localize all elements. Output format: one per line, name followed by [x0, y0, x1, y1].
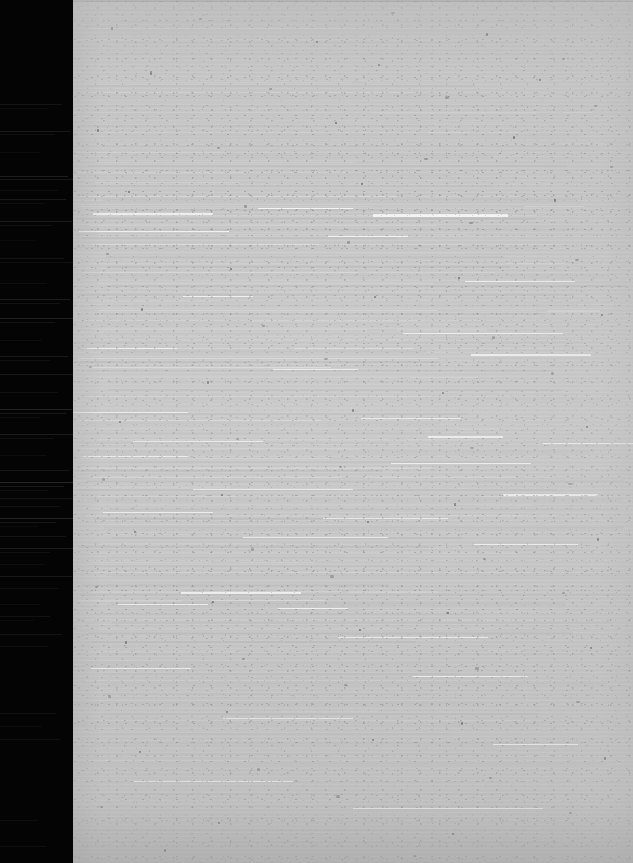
- ghost-text-line: [406, 439, 477, 440]
- ghost-line-shadow: [112, 622, 612, 624]
- ghost-text-line: [450, 17, 547, 18]
- ghost-text-line: [485, 553, 519, 554]
- ghost-text-line: [365, 477, 516, 478]
- ghost-text-band: [73, 196, 633, 406]
- ghost-line-shadow: [102, 693, 440, 695]
- margin-streak: [0, 262, 73, 263]
- document-page: [73, 0, 633, 863]
- paper-speck: [461, 722, 463, 725]
- highlight-streak: [328, 236, 408, 237]
- paper-speck: [106, 253, 109, 255]
- ghost-text-line: [212, 600, 325, 601]
- ghost-text-line: [99, 310, 437, 311]
- ghost-text-line: [380, 162, 453, 163]
- margin-streak: [0, 360, 50, 361]
- page-bottom-vignette: [73, 803, 633, 863]
- ghost-text-line: [88, 670, 307, 672]
- margin-streak: [0, 470, 70, 471]
- margin-streak: [0, 620, 34, 621]
- paper-speck: [316, 41, 318, 43]
- ghost-text-line: [534, 515, 558, 516]
- ghost-text-line: [98, 629, 397, 630]
- ghost-text-line: [432, 348, 564, 349]
- ghost-text-line: [450, 680, 550, 681]
- ghost-text-line: [488, 650, 523, 651]
- ghost-line-shadow: [103, 673, 458, 675]
- highlight-streak: [353, 808, 543, 809]
- highlight-streak: [87, 348, 177, 349]
- ghost-text-line: [85, 790, 280, 792]
- highlight-streak: [278, 608, 348, 609]
- paper-speck: [483, 558, 486, 560]
- ghost-line-shadow: [78, 753, 485, 755]
- paper-speck: [568, 483, 572, 485]
- ghost-line-shadow: [106, 556, 410, 558]
- paper-speck: [586, 426, 588, 428]
- ghost-text-line: [74, 253, 317, 254]
- margin-streak: [0, 646, 48, 647]
- paper-speck: [141, 308, 143, 311]
- paper-speck: [469, 222, 473, 224]
- ghost-text-line: [312, 263, 481, 264]
- ghost-text-line: [86, 750, 346, 751]
- ghost-text-line: [86, 291, 443, 292]
- ghost-text-line: [470, 814, 550, 815]
- ghost-line-shadow: [77, 442, 390, 444]
- paper-speck: [139, 751, 141, 753]
- ghost-text-line: [102, 339, 433, 340]
- ghost-line-shadow: [111, 575, 625, 577]
- ghost-text-line: [90, 562, 211, 563]
- highlight-streak: [323, 518, 448, 519]
- ghost-text-line: [410, 377, 478, 378]
- paper-speck: [513, 136, 515, 139]
- ghost-text-line: [81, 458, 330, 459]
- ghost-line-shadow: [108, 380, 518, 382]
- ghost-text-line: [451, 467, 558, 468]
- ghost-text-line: [77, 486, 231, 488]
- ghost-text-line: [353, 458, 541, 459]
- ghost-line-shadow: [106, 135, 579, 137]
- ghost-text-line: [79, 448, 359, 450]
- paper-speck: [492, 336, 495, 339]
- paper-speck: [359, 629, 361, 631]
- ghost-text-line: [281, 710, 378, 712]
- ghost-text-line: [93, 329, 367, 330]
- ghost-text-line: [421, 553, 478, 554]
- ghost-text-line: [391, 515, 528, 516]
- ghost-line-shadow: [112, 155, 494, 157]
- paper-speck: [324, 358, 328, 360]
- ghost-line-shadow: [82, 829, 529, 831]
- margin-streak: [0, 498, 73, 499]
- ghost-text-line: [90, 760, 254, 761]
- ghost-text-line: [81, 581, 299, 582]
- margin-streak: [0, 634, 62, 635]
- margin-streak: [0, 739, 60, 740]
- paper-speck: [372, 739, 374, 741]
- ghost-text-line: [90, 301, 211, 302]
- ghost-text-line: [97, 496, 236, 497]
- ghost-line-shadow: [88, 185, 494, 187]
- ghost-text-line: [382, 206, 511, 207]
- ghost-text-band: [73, 410, 633, 645]
- paper-speck: [236, 438, 239, 440]
- ghost-text-line: [335, 253, 465, 254]
- paper-speck: [217, 147, 220, 149]
- ghost-text-line: [269, 690, 409, 691]
- margin-streak: [0, 438, 54, 439]
- ghost-line-shadow: [79, 294, 574, 296]
- ghost-text-line: [97, 112, 343, 113]
- ghost-line-shadow: [84, 663, 426, 665]
- ghost-line-shadow: [108, 389, 561, 391]
- ghost-line-shadow: [103, 713, 539, 715]
- margin-streak: [0, 179, 73, 180]
- paper-speck: [562, 592, 565, 594]
- ghost-text-line: [86, 152, 221, 153]
- paper-speck: [242, 658, 245, 660]
- paper-speck: [554, 199, 556, 202]
- paper-speck: [212, 601, 214, 603]
- ghost-line-shadow: [88, 399, 618, 401]
- ghost-text-line: [92, 730, 287, 731]
- ghost-text-line: [364, 610, 463, 611]
- paper-speck: [576, 701, 580, 703]
- ghost-line-shadow: [104, 53, 587, 55]
